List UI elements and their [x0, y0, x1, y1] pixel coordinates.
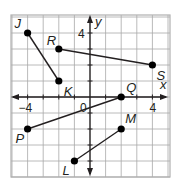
- point-label-l: L: [62, 163, 69, 178]
- point-label-q: Q: [126, 80, 136, 95]
- origin-label: 0: [80, 101, 87, 115]
- point-l: [71, 157, 78, 164]
- point-k: [55, 77, 62, 84]
- x-tick-label: −4: [19, 101, 33, 115]
- point-label-p: P: [16, 131, 25, 146]
- x-axis-arrow-right-icon: [160, 94, 168, 100]
- point-label-r: R: [47, 33, 56, 48]
- point-label-k: K: [64, 84, 74, 99]
- axes: [11, 15, 168, 176]
- point-label-j: J: [14, 16, 22, 31]
- y-tick-label: 4: [78, 27, 85, 41]
- y-axis-arrow-up-icon: [87, 15, 93, 23]
- y-axis-label: y: [94, 14, 103, 29]
- point-q: [118, 93, 125, 100]
- x-tick-label: 4: [149, 101, 156, 115]
- y-axis-arrow-down-icon: [87, 168, 93, 176]
- point-label-m: M: [125, 111, 136, 126]
- point-r: [55, 45, 62, 52]
- point-label-s: S: [156, 68, 165, 83]
- point-s: [149, 61, 156, 68]
- coordinate-plane: xy−4440JKRSQPML: [0, 0, 176, 188]
- point-p: [24, 125, 31, 132]
- point-j: [24, 29, 31, 36]
- point-m: [118, 125, 125, 132]
